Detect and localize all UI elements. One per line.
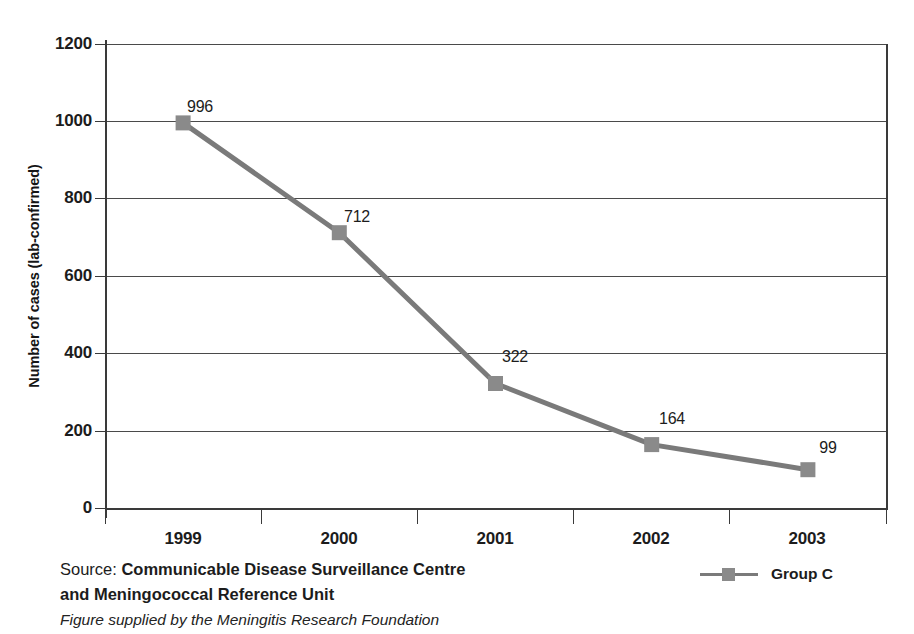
x-tick-mark <box>729 508 730 524</box>
gridline-1200 <box>105 44 888 45</box>
data-label-2002: 164 <box>659 410 685 428</box>
data-point-2000 <box>332 225 347 240</box>
data-point-2001 <box>488 376 503 391</box>
chart-figure: Number of cases (lab-confirmed) 1200 100… <box>0 0 914 545</box>
x-tick-mark <box>261 508 262 524</box>
data-label-1999: 996 <box>187 98 213 116</box>
y-axis-tick-labels: 1200 1000 800 600 400 200 0 <box>18 0 92 545</box>
gridline-800 <box>105 198 888 199</box>
y-tick-label: 200 <box>30 421 92 441</box>
series-group-c <box>0 0 914 545</box>
data-label-2000: 712 <box>344 208 370 226</box>
legend-swatch-group-c <box>700 567 758 581</box>
source-line-1: Source: Communicable Disease Surveillanc… <box>60 557 580 582</box>
y-tick-label: 400 <box>30 343 92 363</box>
gridline-600 <box>105 276 888 277</box>
legend-label-group-c: Group C <box>771 565 833 583</box>
source-org-line2: and Meningococcal Reference Unit <box>60 582 580 607</box>
source-lead-label: Source: <box>60 560 121 578</box>
y-tick-label: 0 <box>30 498 92 518</box>
gridline-400 <box>105 353 888 354</box>
chart-legend: Group C <box>700 565 833 583</box>
gridline-1000 <box>105 121 888 122</box>
data-point-2003 <box>800 462 815 477</box>
gridline-200 <box>105 431 888 432</box>
y-axis-line <box>105 40 107 518</box>
x-tick-mark <box>886 508 887 524</box>
data-point-2002 <box>644 437 659 452</box>
source-org-line1: Communicable Disease Surveillance Centre <box>121 560 465 578</box>
source-credit: Source: Communicable Disease Surveillanc… <box>60 557 580 632</box>
data-label-2003: 99 <box>819 439 836 457</box>
data-point-1999 <box>176 115 191 130</box>
figure-footer: Source: Communicable Disease Surveillanc… <box>0 545 914 634</box>
legend-square-marker-icon <box>722 568 735 581</box>
series-markers <box>176 115 816 477</box>
y-tick-label: 600 <box>30 266 92 286</box>
gridline-0-baseline <box>105 508 888 510</box>
x-tick-mark <box>105 508 106 524</box>
plot-right-edge <box>886 44 888 508</box>
x-tick-mark <box>417 508 418 524</box>
figure-supplier-note: Figure supplied by the Meningitis Resear… <box>60 607 580 632</box>
y-tick-label: 1000 <box>30 111 92 131</box>
y-tick-label: 1200 <box>30 34 92 54</box>
chart-page: Number of cases (lab-confirmed) 1200 100… <box>0 0 914 634</box>
series-line <box>183 123 808 470</box>
y-tick-label: 800 <box>30 188 92 208</box>
x-tick-mark <box>573 508 574 524</box>
data-label-2001: 322 <box>502 348 528 366</box>
